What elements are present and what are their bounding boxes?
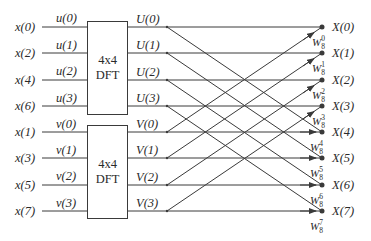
dft-input-v0: v(0) xyxy=(56,118,76,131)
dft-output-V3: V(3) xyxy=(136,197,158,210)
dft-output-V2: V(2) xyxy=(136,171,158,184)
dft-input-u0: u(0) xyxy=(56,12,77,25)
dft-block-even-size: 4x4 xyxy=(98,53,117,68)
input-label-x0: x(0) xyxy=(15,21,35,34)
input-label-x3: x(3) xyxy=(15,152,35,165)
output-label-X5: X(5) xyxy=(332,152,354,165)
dft-input-v2: v(2) xyxy=(56,170,76,183)
dft-output-U0: U(0) xyxy=(136,13,160,26)
dft-block-even: 4x4 DFT xyxy=(87,21,128,115)
dft-input-v1: v(1) xyxy=(56,144,76,157)
input-label-x7: x(7) xyxy=(15,205,35,218)
dft-output-U1: U(1) xyxy=(136,39,160,52)
input-label-x5: x(5) xyxy=(15,179,35,192)
dft-block-even-title: DFT xyxy=(96,68,120,83)
dft-input-u3: u(3) xyxy=(56,92,77,105)
output-label-X1: X(1) xyxy=(332,47,354,60)
dft-output-U2: U(2) xyxy=(136,66,160,79)
twiddle-factor-5: W58 xyxy=(310,166,323,182)
twiddle-factor-7: W78 xyxy=(310,219,323,235)
dft-block-odd-title: DFT xyxy=(96,172,120,187)
dft-output-V1: V(1) xyxy=(136,144,158,157)
fft-butterfly-diagram: x(0) x(2) x(4) x(6) x(1) x(3) x(5) x(7) … xyxy=(0,0,371,241)
dft-block-odd: 4x4 DFT xyxy=(87,125,128,219)
input-label-x1: x(1) xyxy=(15,126,35,139)
dft-block-odd-size: 4x4 xyxy=(98,157,117,172)
output-label-X3: X(3) xyxy=(332,100,354,113)
output-label-X6: X(6) xyxy=(332,179,354,192)
input-label-x4: x(4) xyxy=(15,74,35,87)
twiddle-factor-4: W48 xyxy=(310,140,323,156)
output-label-X0: X(0) xyxy=(332,21,354,34)
input-label-x6: x(6) xyxy=(15,100,35,113)
dft-input-u2: u(2) xyxy=(56,65,77,78)
dft-input-v3: v(3) xyxy=(56,197,76,210)
twiddle-factor-0: W08 xyxy=(312,35,325,51)
twiddle-factor-1: W18 xyxy=(312,61,325,77)
dft-output-V0: V(0) xyxy=(136,118,158,131)
dft-input-u1: u(1) xyxy=(56,39,77,52)
output-label-X4: X(4) xyxy=(332,126,354,139)
input-label-x2: x(2) xyxy=(15,47,35,60)
output-label-X2: X(2) xyxy=(332,74,354,87)
twiddle-factor-3: W38 xyxy=(312,114,325,130)
twiddle-factor-2: W28 xyxy=(312,88,325,104)
dft-output-U3: U(3) xyxy=(136,92,160,105)
twiddle-factor-6: W68 xyxy=(310,193,323,209)
output-label-X7: X(7) xyxy=(332,205,354,218)
